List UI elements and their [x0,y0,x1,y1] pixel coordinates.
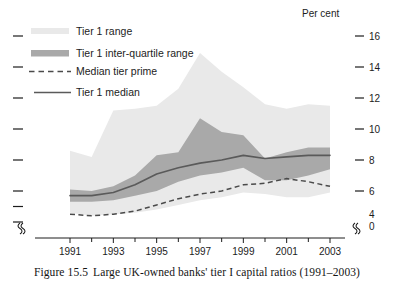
legend-label-prime: Median tier prime [76,65,157,77]
figure-number: Figure 15.5 [34,266,88,278]
y-axis-left [13,36,23,222]
x-tick-label: 1993 [102,246,125,257]
y-axis-right: 1614121086 [355,31,381,197]
y-axis-break-left-icon [18,223,25,234]
legend-swatch-iqr-icon [31,50,69,57]
legend-item-tier-1-median: Tier 1 median [34,86,140,98]
x-tick-label: 1997 [189,246,212,257]
legend-label-median: Tier 1 median [76,86,140,98]
legend-label-iqr: Tier 1 inter-quartile range [76,47,194,59]
y-tick-label: 10 [369,124,381,135]
x-tick-label: 2001 [276,246,299,257]
y-tick-label: 12 [369,93,381,104]
y-axis-break-right-icon [353,223,360,234]
x-tick-label: 1995 [146,246,169,257]
x-tick-label: 1991 [59,246,82,257]
x-tick-label: 1999 [232,246,255,257]
y-tick-label-0: 0 [369,221,375,232]
y-tick-label-4: 4 [369,209,375,220]
x-axis: 1991199319951997199920012003 [35,238,345,257]
y-tick-label: 8 [369,155,375,166]
legend-label-range: Tier 1 range [76,25,132,37]
figure-caption: Figure 15.5Large UK-owned banks' tier I … [0,266,394,278]
chart-canvas: 1991199319951997199920012003 1614121086 … [0,0,394,293]
legend-swatch-range-icon [31,28,69,34]
figure-container: 1991199319951997199920012003 1614121086 … [0,0,394,293]
legend-item-tier-1-range: Tier 1 range [31,25,132,37]
figure-caption-text: Large UK-owned banks' tier I capital rat… [93,266,360,278]
y-axis-unit-label: Per cent [302,8,339,19]
y-tick-label: 14 [369,62,381,73]
chart-legend: Tier 1 range Tier 1 inter-quartile range… [29,25,194,98]
legend-item-median-tier-prime: Median tier prime [29,65,157,77]
legend-item-tier-1-inter-quartile-range: Tier 1 inter-quartile range [31,47,194,59]
y-tick-label: 16 [369,31,381,42]
x-tick-label: 2003 [319,246,342,257]
y-tick-label: 6 [369,186,375,197]
